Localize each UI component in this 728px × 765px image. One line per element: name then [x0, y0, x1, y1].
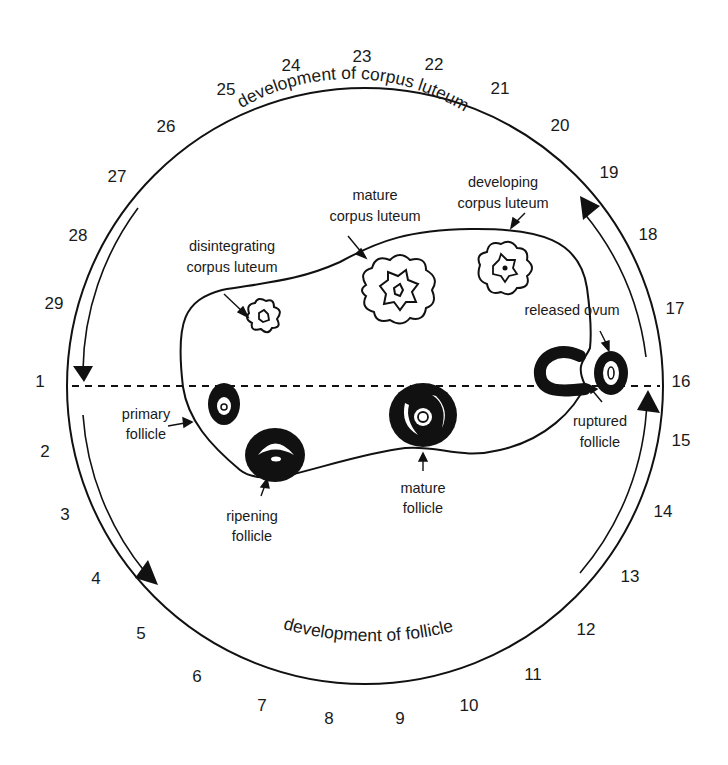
day-3: 3: [60, 505, 69, 524]
primary-follicle-shape: [208, 383, 240, 425]
day-14: 14: [654, 502, 673, 521]
label-developing-corpus-luteum-1: developing: [468, 174, 538, 190]
label-released-ovum: released ovum: [524, 302, 619, 318]
mature-follicle-shape: [389, 383, 457, 447]
mature-corpus-luteum-shape: [362, 255, 435, 324]
day-18: 18: [639, 225, 658, 244]
ruptured-follicle-shape: [540, 352, 585, 390]
day-5: 5: [136, 624, 145, 643]
label-primary-follicle-1: primary: [122, 406, 171, 422]
ovarian-cycle-diagram: 1 2 3 4 5 6 7 8 9 10 11 12 13 14 15 16 1…: [0, 0, 728, 765]
day-8: 8: [324, 709, 333, 728]
day-22: 22: [425, 55, 444, 74]
day-7: 7: [257, 696, 266, 715]
label-mature-corpus-luteum-2: corpus luteum: [329, 208, 420, 224]
label-disintegrating-corpus-luteum-2: corpus luteum: [186, 259, 277, 275]
day-2: 2: [40, 442, 49, 461]
day-9: 9: [395, 709, 404, 728]
day-12: 12: [577, 620, 596, 639]
label-primary-follicle-2: follicle: [126, 426, 166, 442]
label-developing-corpus-luteum-2: corpus luteum: [457, 195, 548, 211]
label-disintegrating-corpus-luteum-1: disintegrating: [189, 238, 275, 254]
ripening-follicle-shape: [245, 428, 305, 482]
day-6: 6: [192, 667, 201, 686]
day-13: 13: [621, 567, 640, 586]
label-ruptured-follicle-1: ruptured: [573, 413, 627, 429]
day-11: 11: [524, 665, 542, 684]
label-ripening-follicle-2: follicle: [232, 528, 272, 544]
day-10: 10: [460, 696, 479, 715]
label-ruptured-follicle-2: follicle: [580, 434, 620, 450]
day-27: 27: [108, 167, 127, 186]
label-ripening-follicle-1: ripening: [226, 508, 278, 524]
day-17: 17: [666, 299, 685, 318]
day-26: 26: [157, 117, 176, 136]
day-19: 19: [600, 163, 619, 182]
disintegrating-corpus-luteum-shape: [247, 299, 280, 332]
day-20: 20: [551, 116, 570, 135]
label-mature-corpus-luteum-1: mature: [352, 187, 397, 203]
day-25: 25: [217, 80, 236, 99]
arc-label-follicle: development of follicle: [282, 613, 455, 645]
day-1: 1: [35, 372, 44, 391]
day-29: 29: [45, 294, 64, 313]
day-16: 16: [672, 372, 691, 391]
released-ovum-shape: [594, 351, 628, 395]
label-mature-follicle-2: follicle: [403, 500, 443, 516]
day-4: 4: [91, 569, 100, 588]
label-mature-follicle-1: mature: [400, 480, 445, 496]
developing-corpus-luteum-shape: [479, 242, 532, 295]
day-15: 15: [672, 431, 691, 450]
day-21: 21: [491, 79, 510, 98]
day-28: 28: [69, 226, 88, 245]
